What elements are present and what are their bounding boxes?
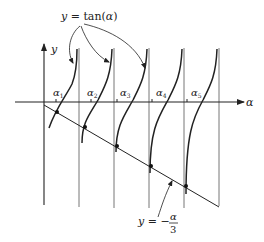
svg-text:α: α: [170, 211, 177, 222]
svg-text:α5: α5: [191, 87, 202, 99]
y-axis-label: y: [50, 43, 58, 56]
curve-label-arrows: [69, 24, 145, 68]
tan-intersection-diagram: y α α1 α2 α3 α4 α5 y = tan(α): [0, 0, 264, 242]
svg-text:y = −: y = −: [137, 215, 170, 228]
intersection-dot: [55, 110, 59, 114]
tan-branch: [150, 49, 182, 173]
intersection-dot: [184, 184, 188, 188]
tan-branch: [186, 49, 217, 194]
svg-text:α2: α2: [87, 87, 98, 99]
intersection-dot: [149, 164, 153, 168]
tan-curves: [49, 49, 217, 194]
line-label: y = − α 3: [137, 211, 178, 235]
svg-text:α4: α4: [156, 87, 167, 99]
x-axis-label: α: [246, 96, 254, 109]
intersection-dot: [115, 144, 119, 148]
svg-text:α1: α1: [53, 87, 64, 99]
svg-text:α3: α3: [120, 87, 131, 99]
curve-label: y = tan(α): [60, 10, 118, 23]
line-neg-alpha-over-3: [44, 105, 219, 207]
tan-branch: [116, 49, 147, 152]
intersection-dot: [83, 125, 87, 129]
asymptotes: [79, 48, 219, 208]
root-labels: α1 α2 α3 α4 α5: [53, 87, 202, 99]
svg-text:3: 3: [170, 224, 176, 235]
